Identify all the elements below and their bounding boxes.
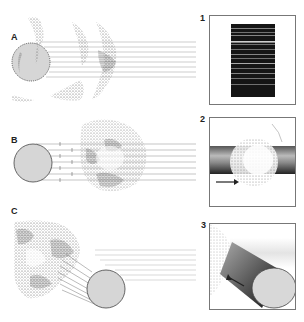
inset-3-drawing	[210, 224, 296, 310]
inset-3-frame	[209, 223, 296, 310]
main-diagram	[0, 0, 200, 322]
star-a	[12, 43, 50, 81]
panel-a	[12, 17, 196, 102]
spectrum-bars	[210, 16, 296, 105]
star-c	[87, 270, 125, 308]
inset-2-frame	[209, 117, 296, 207]
inset-label-1: 1	[200, 13, 205, 23]
panel-c	[14, 220, 196, 308]
sight-lines-a	[40, 42, 196, 77]
cylinder-end	[252, 268, 296, 308]
inset-label-3: 3	[201, 220, 206, 230]
dust-cloud-b	[80, 120, 146, 192]
arrow-right-icon	[216, 179, 239, 185]
panel-b	[14, 120, 196, 192]
inset-2-drawing	[210, 118, 296, 207]
star-b	[14, 144, 52, 182]
inset-1-frame	[209, 15, 296, 105]
dust-cloud-c	[14, 220, 80, 298]
inset-label-2: 2	[200, 114, 205, 124]
